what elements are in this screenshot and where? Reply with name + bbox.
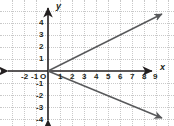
x-tick-label: -2 <box>21 73 28 81</box>
plotted-lines <box>0 0 174 126</box>
y-axis-label: y <box>56 2 61 11</box>
x-axis-label: x <box>160 63 165 72</box>
y-tick-label: 3 <box>39 31 43 39</box>
x-tick-label: 7 <box>130 73 134 81</box>
x-tick-label: 8 <box>142 73 146 81</box>
y-tick-label: -2 <box>36 92 43 100</box>
x-tick-label: 2 <box>70 73 74 81</box>
x-tick-label: 1 <box>58 73 62 81</box>
x-tick-label: 5 <box>106 73 110 81</box>
y-tick-label: 2 <box>39 43 43 51</box>
line-rising <box>48 14 162 71</box>
y-tick-label: 4 <box>39 19 43 27</box>
y-tick-label: -1 <box>36 80 43 88</box>
y-tick-label: -4 <box>36 116 43 124</box>
x-tick-label: 3 <box>82 73 86 81</box>
y-tick-label: -3 <box>36 104 43 112</box>
x-tick-label: 6 <box>118 73 122 81</box>
x-tick-label: 4 <box>94 73 98 81</box>
y-tick-label: 1 <box>39 55 43 63</box>
x-tick-label: 9 <box>153 73 157 81</box>
graph-screenshot: y x O -2 -1 1 2 3 4 5 6 7 8 9 4 3 2 1 -1… <box>0 0 174 126</box>
